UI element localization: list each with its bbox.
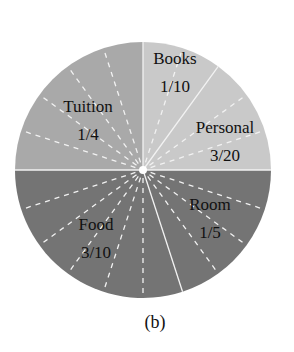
slice-label-books-name: Books bbox=[153, 49, 196, 68]
center-dot bbox=[139, 166, 147, 174]
slice-label-personal-name: Personal bbox=[196, 118, 255, 137]
slice-label-tuition-value: 1/4 bbox=[77, 125, 99, 144]
slice-label-tuition-name: Tuition bbox=[63, 97, 113, 116]
slice-label-room-name: Room bbox=[189, 195, 231, 214]
slice-label-room-value: 1/5 bbox=[199, 223, 221, 242]
pie-chart: Books 1/10 Personal 3/20 Room 1/5 Food 3… bbox=[0, 0, 294, 352]
slice-label-personal-value: 3/20 bbox=[210, 146, 240, 165]
figure-caption: (b) bbox=[145, 312, 166, 333]
slice-label-food-value: 3/10 bbox=[81, 243, 111, 262]
slice-label-food-name: Food bbox=[79, 215, 114, 234]
slice-label-books-value: 1/10 bbox=[160, 77, 190, 96]
